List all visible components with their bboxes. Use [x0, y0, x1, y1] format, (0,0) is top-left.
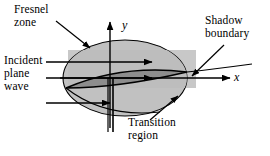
y-axis-label: y — [122, 18, 127, 33]
fresnel-zone-diagram: Fresnel zone Incident plane wave Shadow … — [0, 0, 270, 156]
shadow-boundary-leader — [192, 45, 224, 76]
x-axis-label: x — [234, 70, 239, 85]
fresnel-zone-leader — [56, 21, 90, 48]
fresnel-zone-label: Fresnel zone — [14, 3, 49, 29]
transition-region-label: Transition region — [128, 116, 176, 142]
shadow-boundary-label: Shadow boundary — [205, 14, 249, 40]
incident-plane-wave-label: Incident plane wave — [4, 54, 42, 93]
